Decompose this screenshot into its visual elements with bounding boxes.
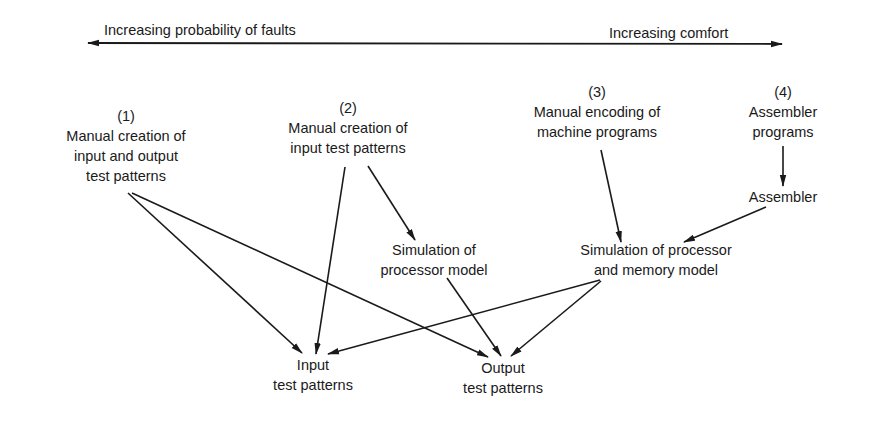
node-label-line: processor model bbox=[380, 260, 487, 280]
node-number: (3) bbox=[534, 82, 661, 102]
node-manual-encoding: (3) Manual encoding of machine programs bbox=[534, 82, 661, 142]
node-label-line: test patterns bbox=[463, 378, 543, 398]
node-label-line: Assembler bbox=[749, 187, 818, 207]
node-label-line: machine programs bbox=[534, 122, 661, 142]
node-label-line: and memory model bbox=[580, 260, 732, 280]
edge-n1-to-input bbox=[128, 193, 302, 353]
node-label-line: Assembler bbox=[749, 102, 818, 122]
node-label-line: input test patterns bbox=[288, 138, 407, 158]
edge-simprocmem-to-input bbox=[328, 280, 600, 354]
node-label-line: Simulation of bbox=[380, 240, 487, 260]
node-label-line: Manual creation of bbox=[288, 118, 407, 138]
node-label-line: programs bbox=[749, 122, 818, 142]
node-manual-input-patterns: (2) Manual creation of input test patter… bbox=[288, 98, 407, 158]
axis-right-label: Increasing comfort bbox=[609, 24, 728, 42]
node-label-line: test patterns bbox=[66, 166, 185, 186]
node-sim-processor: Simulation of processor model bbox=[380, 240, 487, 280]
edge-n2-to-simproc bbox=[368, 166, 415, 240]
node-label-line: Manual encoding of bbox=[534, 102, 661, 122]
node-manual-io-patterns: (1) Manual creation of input and output … bbox=[66, 106, 185, 186]
node-label-line: Input bbox=[273, 355, 353, 375]
node-number: (1) bbox=[66, 106, 185, 126]
node-assembler-programs: (4) Assembler programs bbox=[749, 82, 818, 142]
node-label-line: Manual creation of bbox=[66, 126, 185, 146]
node-input-test-patterns: Input test patterns bbox=[273, 355, 353, 395]
node-output-test-patterns: Output test patterns bbox=[463, 358, 543, 398]
edge-n3-to-simprocmem bbox=[601, 150, 621, 242]
node-label-line: input and output bbox=[66, 146, 185, 166]
axis-left-label: Increasing probability of faults bbox=[104, 21, 296, 39]
edge-assembler-to-simprocmem bbox=[684, 207, 766, 242]
diagram-canvas bbox=[0, 0, 870, 424]
node-number: (4) bbox=[749, 82, 818, 102]
node-sim-processor-memory: Simulation of processor and memory model bbox=[580, 240, 732, 280]
edge-n2-to-input bbox=[316, 167, 345, 354]
node-label-line: Output bbox=[463, 358, 543, 378]
edge-simproc-to-output bbox=[447, 278, 501, 356]
node-label-line: test patterns bbox=[273, 375, 353, 395]
axis-arrow bbox=[88, 43, 782, 44]
node-assembler: Assembler bbox=[749, 187, 818, 207]
node-label-line: Simulation of processor bbox=[580, 240, 732, 260]
node-number: (2) bbox=[288, 98, 407, 118]
